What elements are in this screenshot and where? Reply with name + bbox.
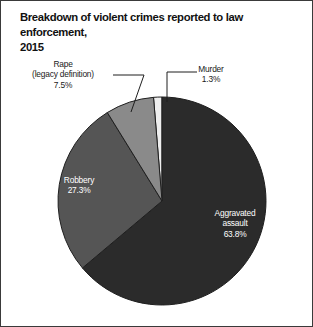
pie-slices [58,97,266,305]
slice-label-rape: Rape (legacy definition) 7.5% [15,59,111,90]
slice-label-robbery: Robbery 27.3% [39,175,119,196]
slice-label-murder: Murder 1.3% [179,64,243,85]
slice-label-aggravated-assault: Aggravated assault 63.8% [192,208,278,239]
pie-chart-graphic [1,1,313,327]
chart-figure: Breakdown of violent crimes reported to … [0,0,313,327]
